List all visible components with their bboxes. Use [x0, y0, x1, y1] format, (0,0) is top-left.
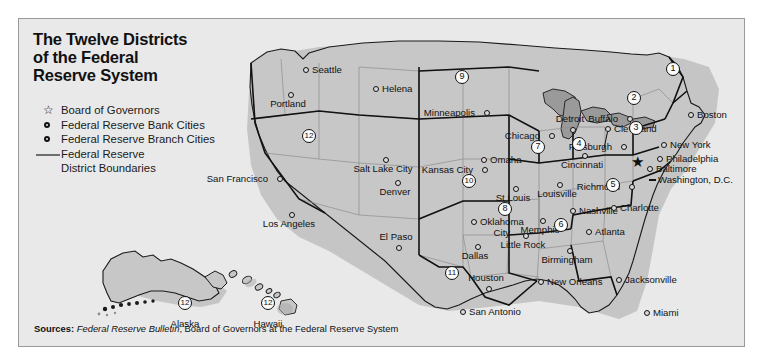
map-panel: The Twelve Districts of the Federal Rese…: [18, 18, 745, 347]
district-badge-8[interactable]: 8: [498, 202, 512, 216]
boundary-line-icon: [35, 147, 61, 162]
legend-label: Board of Governors: [61, 103, 160, 118]
city-label: Charlotte: [620, 203, 659, 213]
city-label: Kansas City: [422, 165, 473, 175]
district-badge-11[interactable]: 11: [445, 266, 459, 280]
sources-publication: Federal Reserve Bulletin: [77, 323, 180, 334]
city-label: San Francisco: [207, 174, 268, 184]
district-badge-3[interactable]: 3: [629, 121, 643, 135]
branch-city-icon: [35, 132, 61, 147]
city-label: Little Rock: [501, 240, 546, 250]
branch-city-icon: [471, 219, 477, 225]
board-of-governors-star-icon[interactable]: ★: [631, 154, 644, 169]
sources-rest: , Board of Governors at the Federal Rese…: [179, 323, 398, 334]
legend-label-continuation: District Boundaries: [35, 161, 215, 176]
city-label: Houston: [468, 273, 504, 283]
branch-city-icon: [303, 67, 309, 73]
legend-label: Federal Reserve Bank Cities: [61, 118, 205, 133]
branch-city-icon: [396, 245, 402, 251]
district-badge-9[interactable]: 9: [455, 70, 469, 84]
city-label: Detroit: [556, 114, 584, 124]
capital-label: Washington, D.C.: [658, 175, 733, 185]
branch-city-icon: [481, 157, 487, 163]
city-label: Louisville: [537, 189, 576, 199]
legend-item-board-of-governors: ☆ Board of Governors: [35, 103, 215, 118]
bank-city-icon: [586, 229, 592, 235]
branch-city-icon: [570, 127, 576, 133]
city-label: Minneapolis: [424, 108, 475, 118]
city-label: Baltimore: [656, 164, 697, 174]
city-label: Boston: [697, 110, 727, 120]
district-badge-12[interactable]: 12: [302, 129, 316, 143]
legend-item-district-boundaries: Federal Reserve: [35, 147, 215, 162]
bank-city-icon: [605, 126, 611, 132]
district-badge-10[interactable]: 10: [462, 174, 476, 188]
legend-label: Federal Reserve Branch Cities: [61, 132, 215, 147]
city-label: Seattle: [312, 65, 342, 75]
city-label: Portland: [270, 99, 306, 109]
alaska-inset: [98, 251, 227, 316]
city-label: Cincinnati: [561, 160, 603, 170]
legend: ☆ Board of Governors Federal Reserve Ban…: [35, 103, 215, 176]
bank-city-icon: [482, 167, 488, 173]
city-label: Miami: [653, 308, 679, 318]
district-badge-2[interactable]: 2: [627, 91, 641, 105]
district-badge-7[interactable]: 7: [531, 140, 545, 154]
city-label: El Paso: [379, 232, 412, 242]
city-label: Birmingham: [541, 255, 592, 265]
district-badge-1[interactable]: 1: [666, 62, 680, 76]
branch-city-icon: [611, 205, 617, 211]
bank-city-icon: [35, 118, 61, 133]
bank-city-icon: [688, 112, 694, 118]
legend-item-bank-cities: Federal Reserve Bank Cities: [35, 118, 215, 133]
legend-label: Federal Reserve: [61, 147, 145, 162]
branch-city-icon: [373, 86, 379, 92]
city-label: Atlanta: [595, 227, 625, 237]
city-label: Denver: [380, 187, 411, 197]
sources-note: Sources: Federal Reserve Bulletin, Board…: [34, 323, 398, 334]
city-label: Salt Lake City: [353, 164, 412, 174]
branch-city-icon: [644, 310, 650, 316]
city-label: New Orleans: [547, 277, 602, 287]
legend-item-branch-cities: Federal Reserve Branch Cities: [35, 132, 215, 147]
district-badge-12[interactable]: 12: [178, 296, 192, 310]
city-label: San Antonio: [469, 307, 521, 317]
bank-city-icon: [484, 110, 490, 116]
branch-city-icon: [538, 279, 544, 285]
capital-tick-icon: [649, 179, 656, 181]
city-label: Jacksonville: [625, 275, 677, 285]
city-label: St Louis: [496, 193, 531, 203]
page-title: The Twelve Districts of the Federal Rese…: [33, 30, 187, 84]
sources-label: Sources:: [34, 323, 74, 334]
star-icon: ☆: [35, 103, 61, 118]
branch-city-icon: [570, 208, 576, 214]
city-label: Dallas: [462, 251, 489, 261]
city-label: OklahomaCity: [480, 217, 524, 238]
branch-city-icon: [486, 286, 492, 292]
district-badge-12[interactable]: 12: [261, 296, 275, 310]
district-badge-5[interactable]: 5: [606, 178, 620, 192]
district-badge-6[interactable]: 6: [554, 218, 568, 232]
bank-city-icon: [661, 142, 667, 148]
city-label: Omaha: [490, 155, 521, 165]
bank-city-icon: [549, 133, 555, 139]
bank-city-icon: [657, 156, 663, 162]
bank-city-icon: [629, 184, 635, 190]
city-label: Buffalo: [588, 114, 618, 124]
city-label: Los Angeles: [263, 219, 315, 229]
branch-city-icon: [616, 277, 622, 283]
city-label: New York: [670, 140, 711, 150]
city-label: Helena: [382, 84, 412, 94]
district-badge-4[interactable]: 4: [572, 137, 586, 151]
branch-city-icon: [460, 309, 466, 315]
branch-city-icon: [647, 166, 653, 172]
branch-city-icon: [621, 144, 627, 150]
bank-city-icon: [277, 176, 283, 182]
